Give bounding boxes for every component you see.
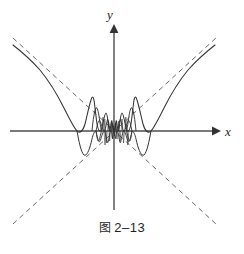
caption-figure-glyph: 图 — [99, 221, 112, 235]
x-axis-label: x — [224, 124, 231, 139]
y-axis-label: y — [105, 7, 113, 22]
x-axis-arrowhead — [212, 127, 221, 136]
math-plot: y x — [0, 0, 244, 254]
curve-lobe-left-medium — [77, 131, 96, 155]
figure-container: y x 图2–13 — [0, 0, 244, 254]
y-axis-arrowhead — [110, 24, 119, 33]
curve-lobe-right-medium — [132, 131, 151, 155]
caption-number: 2–13 — [114, 220, 145, 235]
curve-path-right — [114, 45, 215, 132]
curve-path-left — [13, 45, 114, 132]
figure-caption: 图2–13 — [0, 218, 244, 235]
y-axis — [110, 24, 119, 210]
